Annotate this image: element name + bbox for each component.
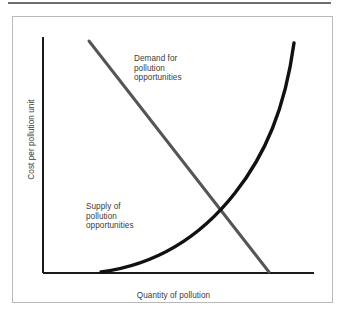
figure-page: Demand for pollution opportunities Suppl… [0,0,350,318]
supply-curve-label: Supply of pollution opportunities [86,202,134,231]
x-axis-title: Quantity of pollution [13,291,334,300]
demand-curve-label: Demand for pollution opportunities [134,54,182,83]
chart-figure-box: Demand for pollution opportunities Suppl… [12,16,333,303]
y-axis-title: Cost per pollution unit [27,70,36,210]
plot-area: Demand for pollution opportunities Suppl… [13,17,334,304]
top-divider-rule [8,2,331,4]
supply-curve [101,43,294,272]
